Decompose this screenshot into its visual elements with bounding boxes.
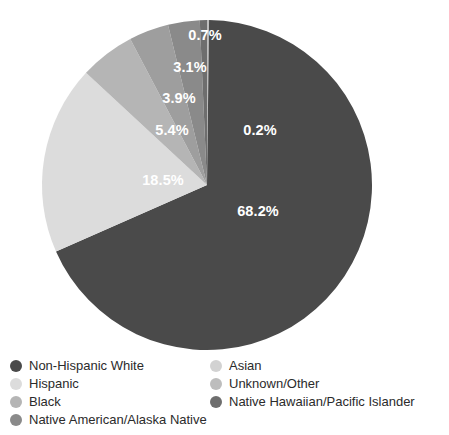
legend-item[interactable]: Unknown/Other	[210, 375, 415, 392]
pie-slice-label: 5.4%	[155, 122, 188, 138]
pie-slice-label: 3.9%	[162, 90, 195, 106]
chart-legend: Non-Hispanic WhiteHispanicBlackNative Am…	[0, 357, 449, 435]
pie-slice-group	[42, 20, 372, 350]
pie-plot-area: 0.2%68.2%18.5%5.4%3.9%3.1%0.7%	[0, 0, 449, 356]
legend-swatch-icon	[10, 396, 22, 408]
legend-item-label: Native American/Alaska Native	[29, 412, 207, 428]
legend-column-left: Non-Hispanic WhiteHispanicBlackNative Am…	[10, 357, 207, 429]
legend-item[interactable]: Native American/Alaska Native	[10, 411, 207, 428]
legend-item[interactable]: Black	[10, 393, 207, 410]
pie-slice-label: 0.2%	[243, 122, 276, 138]
legend-item-label: Hispanic	[29, 376, 79, 392]
legend-item[interactable]: Asian	[210, 357, 415, 374]
legend-column-right: AsianUnknown/OtherNative Hawaiian/Pacifi…	[210, 357, 415, 411]
pie-slice-label: 68.2%	[237, 203, 279, 219]
pie-slice-label: 3.1%	[173, 59, 206, 75]
legend-swatch-icon	[10, 360, 22, 372]
legend-item-label: Unknown/Other	[229, 376, 319, 392]
legend-item[interactable]: Native Hawaiian/Pacific Islander	[210, 393, 415, 410]
pie-slice-label: 0.7%	[188, 27, 221, 43]
legend-swatch-icon	[210, 378, 222, 390]
legend-item[interactable]: Non-Hispanic White	[10, 357, 207, 374]
legend-swatch-icon	[210, 360, 222, 372]
pie-svg: 0.2%68.2%18.5%5.4%3.9%3.1%0.7%	[0, 0, 449, 356]
legend-item-label: Non-Hispanic White	[29, 358, 144, 374]
pie-chart-figure: 0.2%68.2%18.5%5.4%3.9%3.1%0.7% Non-Hispa…	[0, 0, 449, 435]
legend-item-label: Black	[29, 394, 61, 410]
legend-swatch-icon	[210, 396, 222, 408]
legend-item[interactable]: Hispanic	[10, 375, 207, 392]
legend-item-label: Native Hawaiian/Pacific Islander	[229, 394, 415, 410]
legend-swatch-icon	[10, 414, 22, 426]
legend-swatch-icon	[10, 378, 22, 390]
legend-item-label: Asian	[229, 358, 262, 374]
pie-slice-label: 18.5%	[142, 172, 184, 188]
